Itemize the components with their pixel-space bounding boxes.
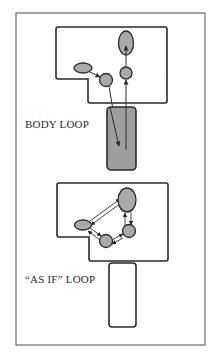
node-bottom-circle xyxy=(100,235,113,248)
node-top-ellipse xyxy=(118,188,136,212)
node-small-ellipse xyxy=(75,220,92,230)
arrow-ellipse-top-pair-a xyxy=(90,199,120,221)
body-box-filled xyxy=(107,107,136,170)
as-if-loop-label: “AS IF” LOOP xyxy=(25,273,95,285)
brain-outline-bottom xyxy=(57,183,168,261)
node-right-circle xyxy=(123,225,136,238)
figure-frame xyxy=(16,13,205,345)
node-small-ellipse xyxy=(74,63,92,73)
body-loop-label: BODY LOOP xyxy=(25,118,89,130)
body-loop-panel xyxy=(56,27,167,170)
loop-diagram xyxy=(0,0,218,360)
arrow-ellipse-bottom-pair-a xyxy=(89,227,101,236)
body-box-empty xyxy=(109,263,136,327)
arrow-ellipse-top-pair-b xyxy=(91,203,121,225)
brain-outline-top xyxy=(56,27,167,103)
node-left-circle xyxy=(100,74,113,87)
node-right-circle xyxy=(120,67,132,79)
as-if-loop-panel xyxy=(57,183,168,327)
